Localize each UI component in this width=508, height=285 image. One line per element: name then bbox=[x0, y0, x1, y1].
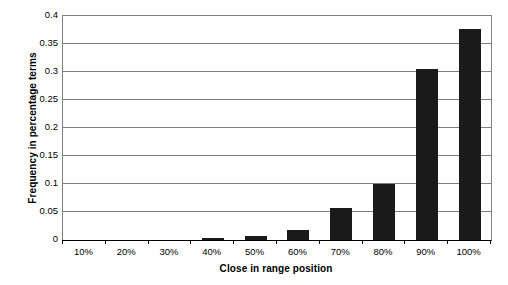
x-axis-tick bbox=[62, 240, 63, 244]
x-axis-tick-labels: 10%20%30%40%50%60%70%80%90%100% bbox=[62, 246, 490, 260]
x-axis-tick-label: 80% bbox=[362, 246, 405, 258]
x-axis-tick-label: 50% bbox=[233, 246, 276, 258]
bar-chart: Frequency in percentage terms 00.050.10.… bbox=[0, 0, 508, 285]
x-axis-tick bbox=[105, 240, 106, 244]
x-axis-tick-label: 10% bbox=[62, 246, 105, 258]
y-axis-tick-label: 0.1 bbox=[26, 178, 58, 188]
x-axis-title: Close in range position bbox=[62, 263, 490, 274]
x-axis-tick bbox=[148, 240, 149, 244]
x-axis-tick-label: 60% bbox=[276, 246, 319, 258]
bar bbox=[416, 69, 438, 240]
y-axis-tick-label: 0.15 bbox=[26, 150, 58, 160]
x-axis-tick-label: 30% bbox=[148, 246, 191, 258]
plot-area bbox=[62, 15, 492, 241]
bar bbox=[330, 208, 352, 240]
x-axis-tick bbox=[490, 240, 491, 244]
x-axis-tick-label: 100% bbox=[447, 246, 490, 258]
y-axis-tick-label: 0.4 bbox=[26, 10, 58, 20]
x-axis-tick bbox=[362, 240, 363, 244]
x-axis-tick bbox=[404, 240, 405, 244]
x-axis-tick bbox=[190, 240, 191, 244]
bar bbox=[459, 29, 481, 240]
x-axis-ticks bbox=[62, 240, 492, 245]
bar bbox=[373, 184, 395, 240]
x-axis-tick bbox=[276, 240, 277, 244]
y-axis-tick-labels: 00.050.10.150.20.250.30.350.4 bbox=[26, 0, 58, 285]
y-axis-tick-label: 0.05 bbox=[26, 206, 58, 216]
x-axis-tick bbox=[447, 240, 448, 244]
x-axis-tick bbox=[233, 240, 234, 244]
y-axis-tick-label: 0.3 bbox=[26, 66, 58, 76]
y-axis-tick-label: 0 bbox=[26, 234, 58, 244]
y-axis-tick-label: 0.35 bbox=[26, 38, 58, 48]
x-axis-tick-label: 20% bbox=[105, 246, 148, 258]
bar bbox=[287, 230, 309, 240]
x-axis-tick bbox=[319, 240, 320, 244]
x-axis-tick-label: 40% bbox=[190, 246, 233, 258]
x-axis-tick-label: 70% bbox=[319, 246, 362, 258]
x-axis-tick-label: 90% bbox=[404, 246, 447, 258]
y-axis-tick-label: 0.2 bbox=[26, 122, 58, 132]
y-axis-tick-label: 0.25 bbox=[26, 94, 58, 104]
bars bbox=[63, 16, 491, 240]
